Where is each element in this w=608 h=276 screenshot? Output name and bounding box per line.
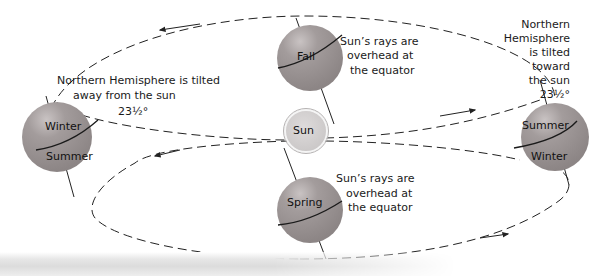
orbit-lower-arrow-left xyxy=(155,150,180,156)
caption-right-line4: toward xyxy=(532,60,570,73)
label-spring: Spring xyxy=(287,196,323,209)
caption-fall-line2: overhead at xyxy=(347,49,414,62)
caption-left: Northern Hemisphere is tilted away from … xyxy=(57,74,220,118)
seasons-diagram: Fall Sun Spring Winter Summer Summer Win… xyxy=(0,0,608,276)
caption-spring-line2: overhead at xyxy=(346,187,413,200)
caption-spring: Sun’s rays are overhead at the equator xyxy=(336,172,415,214)
caption-left-angle: 23½° xyxy=(118,105,148,118)
caption-right: Northern Hemisphere is tilted toward the… xyxy=(504,18,571,101)
caption-right-line1: Northern xyxy=(521,18,570,31)
label-left-upper: Winter xyxy=(45,120,82,133)
caption-spring-line3: the equator xyxy=(348,201,413,214)
orbit-upper-front-right xyxy=(325,100,540,138)
caption-left-line1: Northern Hemisphere is tilted xyxy=(57,74,220,87)
globe-left-winter: Winter Summer xyxy=(22,102,98,172)
caption-left-line2: away from the sun xyxy=(73,89,176,102)
orbit-lower-top-right xyxy=(325,141,520,160)
orbit-lower-left xyxy=(92,141,300,259)
globe-right-summer: Summer Winter xyxy=(514,103,589,171)
caption-fall-line3: the equator xyxy=(350,64,415,77)
caption-right-angle: 23½° xyxy=(540,88,570,101)
page-edge-shadow xyxy=(0,252,608,276)
caption-fall: Sun’s rays are overhead at the equator xyxy=(340,35,419,77)
label-left-lower: Summer xyxy=(46,150,93,163)
globe-fall: Fall xyxy=(277,25,343,91)
orbit-upper-front xyxy=(57,102,290,140)
caption-right-line3: is tilted xyxy=(529,46,570,59)
caption-fall-line1: Sun’s rays are xyxy=(340,35,419,48)
diagram-canvas: Fall Sun Spring Winter Summer Summer Win… xyxy=(0,0,608,276)
sun: Sun xyxy=(284,109,329,154)
orbit-lower-arrow-right xyxy=(480,234,508,238)
caption-right-line5: the sun xyxy=(529,74,570,87)
label-fall: Fall xyxy=(297,50,315,63)
label-right-upper: Summer xyxy=(522,119,569,132)
label-right-lower: Winter xyxy=(531,150,568,163)
orbit-upper-arrow-right-head xyxy=(440,110,475,116)
globe-spring: Spring xyxy=(277,177,343,243)
label-sun: Sun xyxy=(293,124,314,137)
caption-right-line2: Hemisphere xyxy=(504,32,571,45)
caption-spring-line1: Sun’s rays are xyxy=(336,172,415,185)
